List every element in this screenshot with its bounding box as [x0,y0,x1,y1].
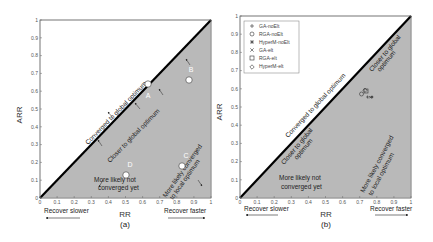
y-tick-label: 0.7 [231,67,238,73]
y-tick-label: 0.4 [231,122,238,128]
x-tick-label: 1 [210,199,213,205]
x-tick-label: 0.6 [139,199,146,205]
point-c-label: C [183,152,188,159]
legend-item: GA-elt [259,47,274,53]
y-tick-label: 1 [235,13,238,19]
point-c [179,163,185,169]
y-tick-label: 0.6 [31,88,38,94]
point-d-label: D [127,161,132,168]
y-tick-label: 0.9 [231,31,238,37]
annotation-notconv-a-2: converged yet [98,184,139,192]
y-tick-label: 1 [35,17,38,23]
point-b-label: B [189,66,194,73]
recover-faster-a: Recover faster [164,207,207,214]
y-tick-label: 0.1 [231,177,238,183]
y-tick-label: 0.5 [231,104,238,110]
x-tick-label: 0.6 [339,199,346,205]
legend-item: RGA-elt [259,55,277,61]
caption-a: (a) [120,220,130,229]
x-tick-label: 0.9 [190,199,197,205]
panel-b: 00.10.20.30.40.50.60.70.80.91 00.10.20.3… [215,13,413,229]
figure: 00.10.20.30.40.50.60.70.80.91 00.10.20.3… [0,0,433,242]
annotation-notconv-a-1: More likely not [94,176,136,184]
caption-b: (b) [321,220,331,229]
x-tick-label: 0.4 [105,199,112,205]
y-tick-label: 0.6 [231,86,238,92]
x-axis-label-b: RR [320,210,332,219]
legend-item: GA-noElt [259,23,280,29]
legend-b: GA-noElt RGA-noElt HyperM-noElt GA-elt R… [244,21,299,73]
recover-slower-a: Recover slower [44,207,90,214]
point-a [145,81,151,87]
y-tick-label: 0.2 [31,159,38,165]
x-tick-label: 0.4 [305,199,312,205]
point-a-label: A [146,92,151,99]
x-tick-label: 0 [239,199,242,205]
x-tick-label: 0.7 [156,199,163,205]
y-tick-label: 0.8 [231,49,238,55]
recover-faster-b: Recover faster [370,205,413,212]
x-tick-label: 0.1 [54,199,61,205]
recover-slower-b: Recover slower [244,205,290,212]
y-tick-label: 0.7 [31,70,38,76]
legend-item: HyperM-noElt [259,39,290,45]
y-axis-label-b: ARR [215,103,224,120]
y-tick-label: 0.2 [231,158,238,164]
x-tick-label: 0.8 [173,199,180,205]
point-d [123,172,129,178]
annotation-notconv-b-1: More likely not [279,174,321,182]
star-marker-icon [250,40,254,44]
y-tick-label: 0.4 [31,124,38,130]
x-tick-label: 0 [39,199,42,205]
legend-item: RGA-noElt [259,31,284,37]
point-b [186,77,192,83]
y-axis-label-a: ARR [15,106,24,123]
annotation-notconv-b-2: converged yet [281,183,322,191]
y-tick-label: 0.8 [31,52,38,58]
y-tick-label: 0.1 [31,177,38,183]
x-axis-label-a: RR [119,210,131,219]
y-tick-label: 0.9 [31,35,38,41]
y-tick-label: 0.5 [31,106,38,112]
x-tick-label: 0.2 [71,199,78,205]
x-tick-label: 0.3 [288,199,295,205]
legend-item: HyperM-elt [259,63,284,69]
panel-a: 00.10.20.30.40.50.60.70.80.91 00.10.20.3… [15,17,213,229]
x-tick-label: 0.5 [322,199,329,205]
x-tick-label: 0.5 [122,199,129,205]
x-tick-label: 0.3 [88,199,95,205]
y-tick-label: 0.3 [231,140,238,146]
y-tick-label: 0.3 [31,141,38,147]
x-tick-label: 0.7 [356,199,363,205]
